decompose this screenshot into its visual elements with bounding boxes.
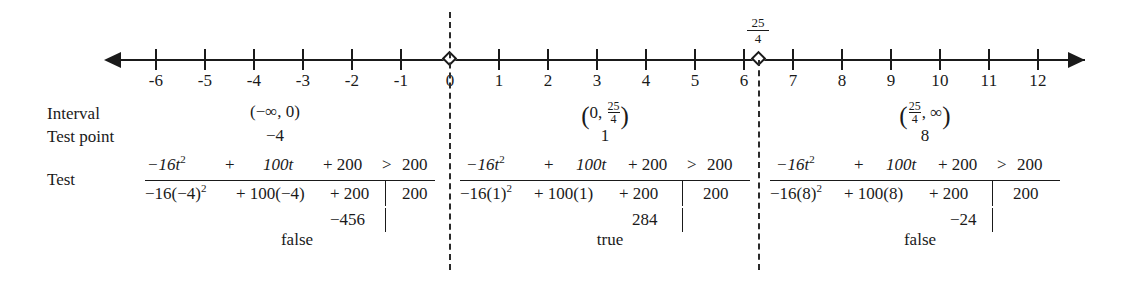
comparison-bar (992, 181, 993, 206)
tick-label: -3 (283, 71, 323, 91)
tick-label: -1 (381, 71, 421, 91)
tick-mark (743, 49, 745, 70)
substituted-quadratic: −16(8)2 (770, 184, 822, 204)
comparison-bar (682, 181, 683, 206)
relation-operator: > (997, 155, 1007, 175)
tick-mark (596, 49, 598, 70)
fraction-denominator: 4 (909, 113, 921, 125)
interval-close-paren: ) (621, 102, 629, 129)
interval-open-paren: ( (899, 102, 907, 129)
comparison-bar (682, 208, 683, 232)
tick-label: 12 (1018, 71, 1058, 91)
tick-mark (792, 49, 794, 70)
row-label-test: Test (47, 170, 75, 190)
fraction-numerator: 25 (608, 100, 620, 112)
test-substitution-row-col-1: −16(−4)2 + 100(−4) + 200 200 (145, 181, 435, 208)
verdict-col-1: false (212, 230, 382, 250)
fraction-numerator: 25 (736, 16, 780, 29)
term-constant: + 200 (323, 155, 362, 175)
tick-mark (694, 49, 696, 70)
tick-label: -6 (136, 71, 176, 91)
right-arrowhead-icon (1068, 52, 1085, 68)
interval-text: 0, (590, 103, 607, 122)
verdict-col-2: true (525, 230, 695, 250)
tick-label: -4 (234, 71, 274, 91)
interval-fraction: 254 (909, 100, 921, 126)
term-quadratic: −16t2 (466, 155, 505, 175)
test-result-row-col-3: −24 (770, 208, 1060, 232)
tick-mark (351, 49, 353, 70)
relation-operator: > (382, 155, 392, 175)
substituted-constant: + 200 (929, 184, 968, 204)
evaluated-result: −456 (330, 210, 365, 230)
term-quadratic: −16t2 (776, 155, 815, 175)
right-hand-side-value: 200 (1013, 184, 1039, 204)
tick-mark (890, 49, 892, 70)
interval-text: −∞, 0 (256, 102, 295, 121)
test-result-row-col-1: −456 (145, 208, 435, 232)
fraction-denominator: 4 (736, 32, 780, 45)
plus-sign-1: + (854, 155, 864, 175)
comparison-bar (385, 181, 386, 206)
row-label-interval: Interval (47, 104, 100, 124)
tick-label: 2 (528, 71, 568, 91)
tick-mark (939, 49, 941, 70)
figure-canvas: -6 -5 -4 -3 -2 -1 0 1 2 3 4 5 6 7 8 9 10… (0, 0, 1131, 288)
test-result-row-col-2: 284 (460, 208, 750, 232)
term-constant: + 200 (628, 155, 667, 175)
evaluated-result: 284 (632, 210, 658, 230)
test-computation-col-3: −16t2 + 100t + 200 > 200 −16(8)2 + 100(8… (770, 155, 1060, 232)
tick-label: -2 (332, 71, 372, 91)
test-substitution-row-col-3: −16(8)2 + 100(8) + 200 200 (770, 181, 1060, 208)
tick-label: 10 (920, 71, 960, 91)
tick-label: 7 (773, 71, 813, 91)
divider-at-25-4 (758, 60, 760, 270)
substituted-linear: + 100(−4) (236, 184, 305, 204)
tick-label: 8 (822, 71, 862, 91)
tick-mark (988, 49, 990, 70)
relation-operator: > (687, 155, 697, 175)
plus-sign-1: + (225, 155, 235, 175)
tick-mark (155, 49, 157, 70)
substituted-quadratic: −16(−4)2 (145, 184, 207, 204)
tick-label: 4 (626, 71, 666, 91)
tick-label: -5 (185, 71, 225, 91)
term-linear: 100t (886, 155, 916, 175)
tick-mark (204, 49, 206, 70)
evaluated-result: −24 (950, 210, 977, 230)
substituted-linear: + 100(8) (844, 184, 903, 204)
test-computation-col-2: −16t2 + 100t + 200 > 200 −16(1)2 + 100(1… (460, 155, 750, 232)
comparison-bar (385, 208, 386, 232)
left-arrowhead-icon (104, 52, 121, 68)
verdict-col-3: false (835, 230, 1005, 250)
tick-label: 9 (871, 71, 911, 91)
term-constant: + 200 (938, 155, 977, 175)
test-point-value-col-2: 1 (520, 126, 690, 146)
tick-mark (547, 49, 549, 70)
axis-fraction-label-25-4: 25 4 (736, 16, 780, 46)
tick-label: 11 (969, 71, 1009, 91)
tick-label: 1 (479, 71, 519, 91)
tick-mark (253, 49, 255, 70)
tick-mark (302, 49, 304, 70)
tick-mark (498, 49, 500, 70)
substituted-quadratic: −16(1)2 (460, 184, 512, 204)
right-hand-side: 200 (1017, 155, 1043, 175)
right-hand-side: 200 (707, 155, 733, 175)
tick-mark (1037, 49, 1039, 70)
tick-label: 5 (675, 71, 715, 91)
interval-value-col-1: (−∞, 0) (190, 102, 360, 122)
interval-text: , ∞ (922, 103, 943, 122)
interval-value-col-3: (254, ∞) (840, 100, 1010, 126)
tick-mark (645, 49, 647, 70)
test-inequality-row-col-2: −16t2 + 100t + 200 > 200 (460, 155, 750, 181)
right-hand-side: 200 (402, 155, 428, 175)
tick-label: 3 (577, 71, 617, 91)
comparison-bar (992, 208, 993, 232)
term-quadratic: −16t2 (147, 155, 186, 175)
interval-open-paren: ( (581, 102, 589, 129)
interval-fraction: 254 (608, 100, 620, 126)
divider-at-0 (449, 12, 451, 270)
fraction-denominator: 4 (608, 113, 620, 125)
right-hand-side-value: 200 (703, 184, 729, 204)
